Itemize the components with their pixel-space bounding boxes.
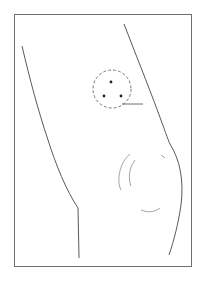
leg-outline-right xyxy=(124,24,182,255)
knee-arc-outer xyxy=(119,154,130,190)
marker-dot xyxy=(110,81,113,84)
figure-frame xyxy=(15,15,192,267)
dashed-marker-circle xyxy=(93,70,131,108)
knee-tick-top xyxy=(161,155,165,158)
knee-arc-lower xyxy=(141,208,160,212)
marker-dot xyxy=(103,95,106,98)
marker-dot xyxy=(120,95,123,98)
knee-arc-inner xyxy=(129,160,135,186)
marked-site xyxy=(93,70,143,108)
leg-illustration xyxy=(0,0,206,284)
leg-outline-left xyxy=(22,46,79,258)
